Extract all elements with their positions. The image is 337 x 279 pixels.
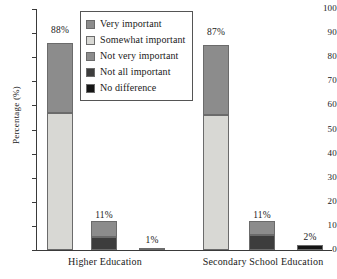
chart-legend: Very importantSomewhat importantNot very…: [80, 11, 193, 101]
bar: [47, 38, 73, 250]
stacked-bar-chart: Percentage (%) 1009080706050403020100 88…: [0, 0, 337, 279]
legend-item-label: Not very important: [100, 51, 178, 61]
bar-segment: [139, 248, 165, 250]
legend-item-label: Not all important: [100, 67, 171, 77]
bar-value-label: 11%: [240, 210, 284, 220]
legend-item[interactable]: Not very important: [86, 48, 185, 64]
bar-value-label: 2%: [288, 232, 332, 242]
x-axis-line: [36, 250, 332, 251]
bar-segment: [249, 221, 275, 235]
y-tick-mark: [32, 250, 36, 251]
bar-value-label: 88%: [38, 25, 82, 35]
legend-item[interactable]: No difference: [86, 80, 185, 96]
bar-value-label: 11%: [82, 210, 126, 220]
bar-value-label: 87%: [194, 27, 238, 37]
legend-swatch-icon: [86, 84, 95, 93]
legend-item-label: No difference: [100, 83, 156, 93]
bar-value-label: 1%: [130, 235, 174, 245]
bar-segment: [249, 235, 275, 250]
legend-item[interactable]: Somewhat important: [86, 32, 185, 48]
bar-segment: [203, 45, 229, 115]
legend-item[interactable]: Very important: [86, 16, 185, 32]
x-tick-label: Secondary School Education: [183, 256, 337, 267]
legend-swatch-icon: [86, 52, 95, 61]
bar-segment: [91, 221, 117, 237]
y-axis-title: Percentage (%): [11, 60, 21, 170]
bar: [297, 245, 323, 250]
legend-swatch-icon: [86, 20, 95, 29]
bar-segment: [91, 237, 117, 250]
bar: [139, 248, 165, 250]
bar-segment: [47, 113, 73, 250]
legend-swatch-icon: [86, 36, 95, 45]
legend-item-label: Very important: [100, 19, 162, 29]
x-tick-label: Higher Education: [25, 256, 185, 267]
legend-item-label: Somewhat important: [100, 35, 185, 45]
bar-segment: [203, 115, 229, 250]
legend-item[interactable]: Not all important: [86, 64, 185, 80]
bar: [203, 40, 229, 250]
bar-segment: [297, 245, 323, 250]
bar-segment: [47, 43, 73, 113]
bar: [91, 224, 117, 251]
legend-swatch-icon: [86, 68, 95, 77]
bar: [249, 224, 275, 251]
